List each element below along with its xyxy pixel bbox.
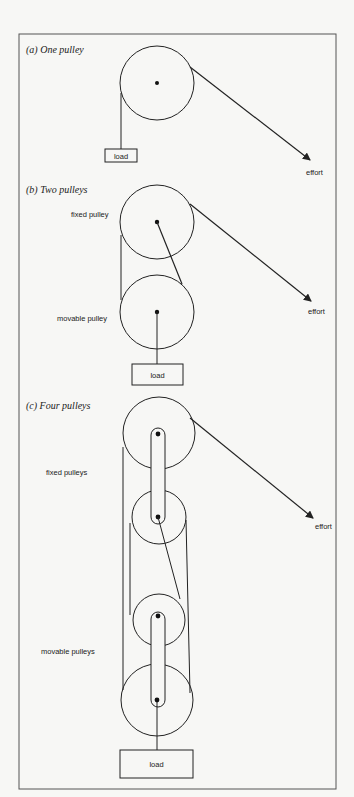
effort-label: effort: [308, 307, 326, 316]
axle: [155, 698, 160, 703]
panel-title: (a) One pulley: [26, 44, 84, 56]
panel-title: (b) Two pulleys: [26, 184, 88, 196]
effort-arrow: [190, 418, 313, 518]
fixed-strap: [151, 428, 165, 524]
load-label: load: [114, 152, 128, 161]
load-label: load: [150, 371, 164, 380]
movable-pulley-label: movable pulley: [57, 314, 107, 323]
axle: [156, 614, 161, 619]
pulley-diagram: (a) One pulley load effort (b) Two pulle…: [0, 0, 354, 797]
rope: [186, 520, 190, 693]
movable-pulleys-label: movable pulleys: [41, 647, 95, 656]
effort-label: effort: [315, 522, 333, 531]
effort-arrow: [190, 204, 311, 301]
panel-title: (c) Four pulleys: [26, 400, 91, 412]
axle: [156, 432, 161, 437]
movable-strap: [151, 612, 165, 707]
effort-arrow: [190, 67, 310, 160]
panel-one-pulley: (a) One pulley load effort: [26, 44, 324, 177]
load-label: load: [149, 760, 163, 769]
figure-frame: [19, 34, 336, 789]
fixed-pulley-label: fixed pulley: [71, 210, 109, 219]
effort-label: effort: [306, 168, 324, 177]
panel-two-pulleys: (b) Two pulleys load fixed pulley movabl…: [26, 184, 326, 385]
fixed-pulleys-label: fixed pulleys: [46, 468, 88, 477]
rope: [158, 517, 180, 599]
axle: [155, 81, 159, 85]
panel-four-pulleys: (c) Four pulleys load fixed pulleys mova…: [26, 397, 333, 778]
